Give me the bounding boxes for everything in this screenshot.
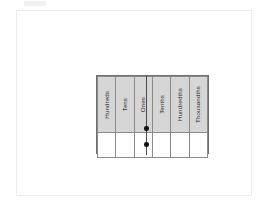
header-cell-ones[interactable]: Ones [134, 77, 152, 133]
table-body-row [98, 133, 208, 158]
header-cell-thousandths[interactable]: Thousandths [189, 77, 207, 133]
column-label-tens: Tens [122, 96, 128, 113]
header-cell-hundreds[interactable]: Hundreds [98, 77, 116, 133]
value-cell-tenths[interactable] [152, 133, 170, 158]
header-cell-tenths[interactable]: Tenths [152, 77, 170, 133]
value-cell-hundredths[interactable] [171, 133, 189, 158]
value-cell-ones[interactable] [134, 133, 152, 158]
value-cell-thousandths[interactable] [189, 133, 207, 158]
value-cell-tens[interactable] [116, 133, 134, 158]
table-header-row: Hundreds Tens Ones Tenths Hundredths Tho… [98, 77, 208, 133]
value-cell-hundreds[interactable] [98, 133, 116, 158]
column-label-tenths: Tenths [159, 93, 165, 116]
column-label-ones: Ones [140, 95, 146, 114]
scan-artifact [24, 1, 46, 6]
header-cell-hundredths[interactable]: Hundredths [171, 77, 189, 133]
document-page: Hundreds Tens Ones Tenths Hundredths Tho… [16, 10, 252, 196]
header-cell-tens[interactable]: Tens [116, 77, 134, 133]
column-label-thousandths: Thousandths [195, 84, 201, 125]
place-value-chart: Hundreds Tens Ones Tenths Hundredths Tho… [96, 75, 209, 154]
place-value-table: Hundreds Tens Ones Tenths Hundredths Tho… [97, 76, 208, 158]
column-label-hundredths: Hundredths [177, 86, 183, 123]
column-label-hundreds: Hundreds [104, 89, 110, 121]
